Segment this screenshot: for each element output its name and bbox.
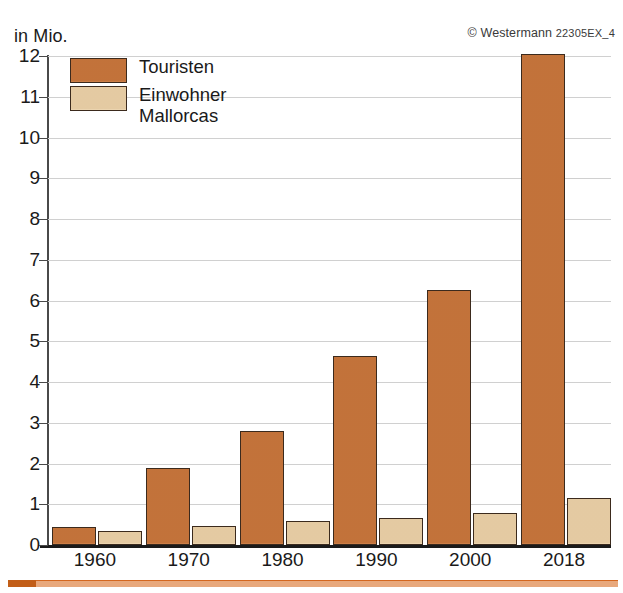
y-axis-tick-labels: 0123456789101112	[8, 56, 40, 545]
bar-einwohner-1990	[379, 518, 423, 545]
y-axis-tick	[39, 382, 48, 383]
bar-group	[240, 56, 330, 545]
x-axis-tick-label: 1980	[236, 549, 330, 571]
bar-einwohner-2000	[473, 513, 517, 545]
y-axis-tick	[39, 97, 48, 98]
y-axis-tick-label: 10	[10, 128, 40, 147]
footer-rule	[8, 580, 618, 587]
y-axis-tick-label: 7	[10, 250, 40, 269]
credit-code: 22305EX_4	[556, 27, 615, 39]
copyright-credit: © Westermann 22305EX_4	[468, 26, 615, 40]
y-axis-tick-label: 4	[10, 372, 40, 391]
y-axis-tick	[39, 260, 48, 261]
legend-item-touristen: Touristen	[70, 57, 300, 83]
bar-group	[146, 56, 236, 545]
y-axis-tick-label: 0	[10, 535, 40, 554]
bar-einwohner-1960	[98, 531, 142, 545]
bar-touristen-1960	[52, 527, 96, 545]
y-axis-tick	[39, 219, 48, 220]
bar-einwohner-1970	[192, 526, 236, 545]
y-axis-tick-label: 1	[10, 494, 40, 513]
legend-label-touristen: Touristen	[139, 57, 214, 78]
y-axis-tick	[39, 138, 48, 139]
bar-group	[521, 56, 611, 545]
bar-touristen-1970	[146, 468, 190, 545]
x-axis-tick-labels: 196019701980199020002018	[48, 549, 611, 579]
y-axis-tick-label: 5	[10, 331, 40, 350]
legend-item-einwohner: Einwohner Mallorcas	[70, 85, 300, 126]
y-axis-tick-label: 2	[10, 454, 40, 473]
y-axis-unit-label: in Mio.	[14, 26, 68, 47]
credit-publisher: © Westermann	[468, 26, 553, 40]
x-axis-tick-label: 1960	[48, 549, 142, 571]
bar-group	[52, 56, 142, 545]
bar-einwohner-2018	[567, 498, 611, 545]
bar-group	[333, 56, 423, 545]
chart-legend: Touristen Einwohner Mallorcas	[70, 57, 300, 128]
y-axis-tick	[39, 464, 48, 465]
x-axis-tick-label: 2000	[423, 549, 517, 571]
legend-label-einwohner: Einwohner Mallorcas	[139, 85, 226, 126]
y-axis-tick-label: 3	[10, 413, 40, 432]
bar-touristen-2000	[427, 290, 471, 545]
y-axis-tick-label: 9	[10, 168, 40, 187]
y-axis-tick-label: 12	[10, 46, 40, 65]
y-axis-tick-label: 8	[10, 209, 40, 228]
y-axis-tick-label: 6	[10, 291, 40, 310]
y-axis-tick	[39, 56, 48, 57]
legend-swatch-einwohner	[70, 86, 127, 111]
chart-figure: in Mio. © Westermann 22305EX_4 012345678…	[0, 0, 623, 593]
plot-area	[48, 56, 611, 545]
y-axis-tick-label: 11	[10, 87, 40, 106]
bar-touristen-2018	[521, 54, 565, 545]
bar-einwohner-1980	[286, 521, 330, 545]
y-axis-tick	[39, 545, 48, 546]
y-axis-tick	[39, 301, 48, 302]
bar-touristen-1980	[240, 431, 284, 545]
y-axis-tick	[39, 341, 48, 342]
bar-group	[427, 56, 517, 545]
x-axis-tick-label: 2018	[517, 549, 611, 571]
x-axis-line	[40, 545, 611, 548]
y-axis-tick	[39, 504, 48, 505]
legend-swatch-touristen	[70, 58, 127, 83]
x-axis-tick-label: 1990	[330, 549, 424, 571]
bar-touristen-1990	[333, 356, 377, 545]
y-axis-tick	[39, 423, 48, 424]
footer-rule-cap	[8, 580, 36, 587]
x-axis-tick-label: 1970	[142, 549, 236, 571]
y-axis-tick	[39, 178, 48, 179]
